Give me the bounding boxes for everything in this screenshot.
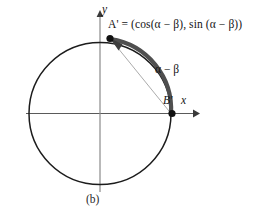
figure-caption: (b) xyxy=(86,194,99,206)
unit-circle-figure: y A' = (cos(α − β), sin (α − β)) α − β B… xyxy=(0,0,269,218)
unit-circle-diagram xyxy=(0,0,269,218)
point-b-prime-label: B' xyxy=(163,95,172,107)
arc-angle-label: α − β xyxy=(155,64,179,76)
point-marker-a-prime xyxy=(106,35,113,42)
point-marker-b-prime xyxy=(168,110,175,117)
x-axis-arrowhead-icon xyxy=(193,110,200,118)
point-a-prime-equation-label: A' = (cos(α − β), sin (α − β)) xyxy=(108,19,242,31)
y-axis xyxy=(97,10,104,192)
x-axis-label: x xyxy=(181,95,186,107)
y-axis-label: y xyxy=(102,4,107,16)
